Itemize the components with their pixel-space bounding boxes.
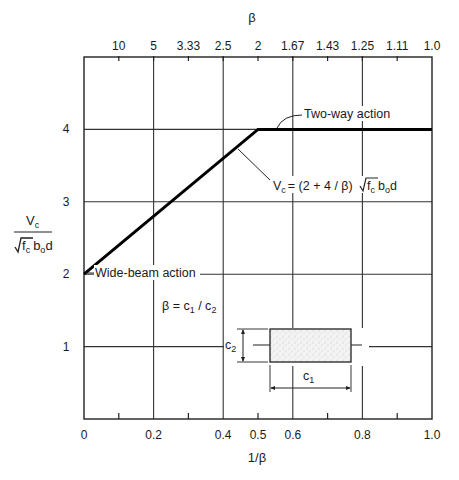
chart: 1053.332.521.671.431.251.111.0 00.20.40.… (0, 0, 459, 480)
top-tick-label: 1.43 (316, 39, 340, 53)
top-axis-title: β (248, 10, 255, 25)
y-tick-label: 1 (63, 340, 70, 354)
y-tick-label: 2 (63, 267, 70, 281)
bottom-tick-label: 1.0 (424, 428, 441, 442)
svg-text:fcbod: fcbod (22, 238, 53, 255)
two-way-leader (277, 115, 302, 128)
top-tick-label: 1.67 (281, 39, 305, 53)
y-tick-label: 4 (63, 122, 70, 136)
top-tick-label: 3.33 (177, 39, 201, 53)
top-tick-label: 1.11 (386, 39, 409, 53)
y-axis-title: Vc fcbod (14, 213, 53, 255)
bottom-tick-label: 0.8 (354, 428, 371, 442)
y-tick-label: 3 (63, 195, 70, 209)
top-tick-label: 2 (255, 39, 262, 53)
column-section (270, 329, 351, 362)
equation-leader (238, 149, 272, 182)
wide-beam-action-label: Wide-beam action (95, 266, 196, 280)
bottom-axis-title: 1/β (248, 450, 266, 465)
equation-label: Vc= (2 + 4 / β) fcbod (273, 178, 397, 195)
top-axis-tick-labels: 1053.332.521.671.431.251.111.0 (112, 39, 441, 53)
beta-definition: β = c1 / c2 (162, 299, 216, 315)
bottom-tick-label: 0 (81, 428, 88, 442)
top-tick-label: 5 (150, 39, 157, 53)
top-tick-label: 10 (112, 39, 126, 53)
svg-text:Vc: Vc (26, 213, 40, 230)
top-tick-label: 2.5 (215, 39, 232, 53)
y-axis-tick-labels: 1234 (63, 122, 70, 353)
bottom-axis-tick-labels: 00.20.40.50.60.81.0 (81, 428, 441, 442)
bottom-tick-label: 0.5 (250, 428, 267, 442)
top-tick-label: 1.25 (351, 39, 375, 53)
column-diagram: c2 c1 (224, 328, 369, 392)
bottom-tick-label: 0.6 (284, 428, 301, 442)
bottom-tick-label: 0.2 (145, 428, 162, 442)
top-tick-label: 1.0 (424, 39, 441, 53)
bottom-tick-label: 0.4 (215, 428, 232, 442)
two-way-action-label: Two-way action (304, 107, 390, 121)
